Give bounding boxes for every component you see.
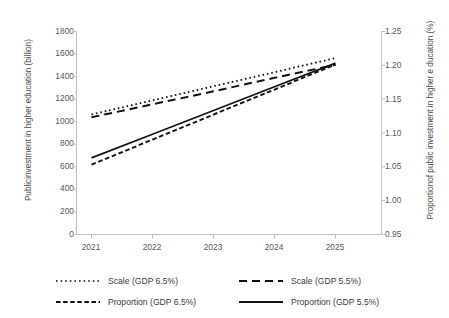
legend-item-proportion-65[interactable]: Proportion (GDP 6.5%) [55, 297, 196, 307]
series-line-1 [92, 65, 336, 117]
legend-label-scale-65: Scale (GDP 6.5%) [108, 276, 178, 286]
legend-label-proportion-55: Proportion (GDP 5.5%) [291, 297, 379, 307]
legend-item-scale-55[interactable]: Scale (GDP 5.5%) [238, 276, 361, 286]
series-layer [92, 58, 336, 165]
plot-area [0, 0, 449, 318]
series-line-2 [92, 65, 336, 165]
series-line-0 [92, 58, 336, 114]
legend-key-dashed-long [238, 276, 284, 286]
legend-item-scale-65[interactable]: Scale (GDP 6.5%) [55, 276, 178, 286]
legend-label-scale-55: Scale (GDP 5.5%) [291, 276, 361, 286]
legend-key-solid [238, 297, 284, 307]
left-tick-marks [73, 32, 77, 235]
right-tick-marks [382, 32, 386, 235]
x-tick-marks [92, 235, 336, 239]
series-line-3 [92, 63, 336, 158]
legend-key-dotted [55, 276, 101, 286]
legend-label-proportion-65: Proportion (GDP 6.5%) [108, 297, 196, 307]
chart-container: Publicinvestment in higher education (bi… [0, 0, 449, 318]
legend-item-proportion-55[interactable]: Proportion (GDP 5.5%) [238, 297, 379, 307]
legend-key-dashed-short [55, 297, 101, 307]
